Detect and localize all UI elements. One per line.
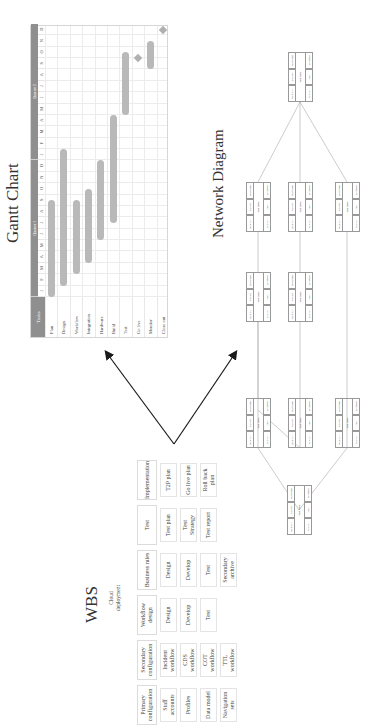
node-field: Slack <box>305 415 313 432</box>
network-node: Early StartDurationEarly FinishTask Name… <box>335 398 360 448</box>
node-field: Duration <box>288 415 296 432</box>
node-field: Late Start <box>352 431 360 448</box>
node-field: Late Finish <box>263 398 271 415</box>
node-task-name: Task Name <box>296 272 305 322</box>
node-field: Early Finish <box>288 182 296 199</box>
node-field: Early Finish <box>246 398 254 415</box>
node-field: Early Start <box>288 85 296 102</box>
node-field: Duration <box>335 199 343 216</box>
node-field: Late Start <box>305 215 313 232</box>
network-node: Early StartDurationEarly FinishTask Name… <box>288 182 313 232</box>
node-field: Duration <box>288 199 296 216</box>
node-field: Late Finish <box>305 182 313 199</box>
node-field: Duration <box>288 69 296 86</box>
node-task-name: Task Name <box>295 485 304 535</box>
node-field: Early Finish <box>246 182 254 199</box>
node-field: Late Start <box>263 215 271 232</box>
node-task-name: Task Name <box>254 182 263 232</box>
node-field: Slack <box>305 289 313 306</box>
network-node: Early StartDurationEarly FinishTask Name… <box>288 398 313 448</box>
node-field: Early Finish <box>288 52 296 69</box>
node-field: Early Start <box>246 215 254 232</box>
node-field: Late Start <box>305 431 313 448</box>
node-field: Slack <box>352 199 360 216</box>
node-field: Late Finish <box>352 398 360 415</box>
node-field: Early Start <box>246 305 254 322</box>
node-field: Early Finish <box>335 398 343 415</box>
node-field: Early Finish <box>288 272 296 289</box>
node-field: Slack <box>352 415 360 432</box>
node-field: Slack <box>263 199 271 216</box>
node-field: Duration <box>246 199 254 216</box>
node-field: Early Finish <box>288 398 296 415</box>
node-field: Duration <box>246 415 254 432</box>
node-field: Duration <box>246 289 254 306</box>
node-field: Late Start <box>304 518 312 535</box>
network-node: Early StartDurationEarly FinishTask Name… <box>246 272 271 322</box>
node-field: Late Start <box>305 305 313 322</box>
node-task-name: Task Name <box>296 182 305 232</box>
node-task-name: Task Name <box>254 272 263 322</box>
network-node: Early StartDurationEarly FinishTask Name… <box>288 52 313 102</box>
node-task-name: Task Name <box>343 182 352 232</box>
node-field: Early Start <box>288 431 296 448</box>
node-task-name: Task Name <box>296 398 305 448</box>
node-field: Late Finish <box>304 485 312 502</box>
node-field: Early Finish <box>335 182 343 199</box>
node-task-name: Task Name <box>343 398 352 448</box>
node-field: Late Finish <box>305 52 313 69</box>
node-field: Slack <box>263 289 271 306</box>
node-field: Early Start <box>288 305 296 322</box>
node-field: Late Finish <box>263 272 271 289</box>
node-field: Early Start <box>335 215 343 232</box>
node-field: Duration <box>288 289 296 306</box>
network-node: Early StartDurationEarly FinishTask Name… <box>335 182 360 232</box>
node-field: Early Finish <box>287 485 295 502</box>
node-field: Slack <box>305 69 313 86</box>
node-field: Duration <box>335 415 343 432</box>
node-field: Late Start <box>352 215 360 232</box>
node-field: Slack <box>304 502 312 519</box>
network-node: Early StartDurationEarly FinishTask Name… <box>287 485 312 535</box>
node-field: Late Start <box>263 305 271 322</box>
node-field: Late Start <box>305 85 313 102</box>
node-field: Slack <box>305 199 313 216</box>
node-task-name: Task Name <box>296 52 305 102</box>
node-task-name: Task Name <box>254 398 263 448</box>
node-field: Early Start <box>287 518 295 535</box>
node-field: Late Finish <box>305 272 313 289</box>
node-field: Early Start <box>246 431 254 448</box>
node-field: Late Start <box>263 431 271 448</box>
node-field: Early Start <box>288 215 296 232</box>
node-field: Late Finish <box>352 182 360 199</box>
network-node: Early StartDurationEarly FinishTask Name… <box>246 182 271 232</box>
node-field: Duration <box>287 502 295 519</box>
diagram-canvas: WBS Cloud deployment Primary configurati… <box>0 0 365 728</box>
node-field: Early Finish <box>246 272 254 289</box>
network-node: Early StartDurationEarly FinishTask Name… <box>288 272 313 322</box>
node-field: Slack <box>263 415 271 432</box>
network-node: Early StartDurationEarly FinishTask Name… <box>246 398 271 448</box>
network-links <box>0 0 365 728</box>
node-field: Late Finish <box>305 398 313 415</box>
node-field: Early Start <box>335 431 343 448</box>
node-field: Late Finish <box>263 182 271 199</box>
